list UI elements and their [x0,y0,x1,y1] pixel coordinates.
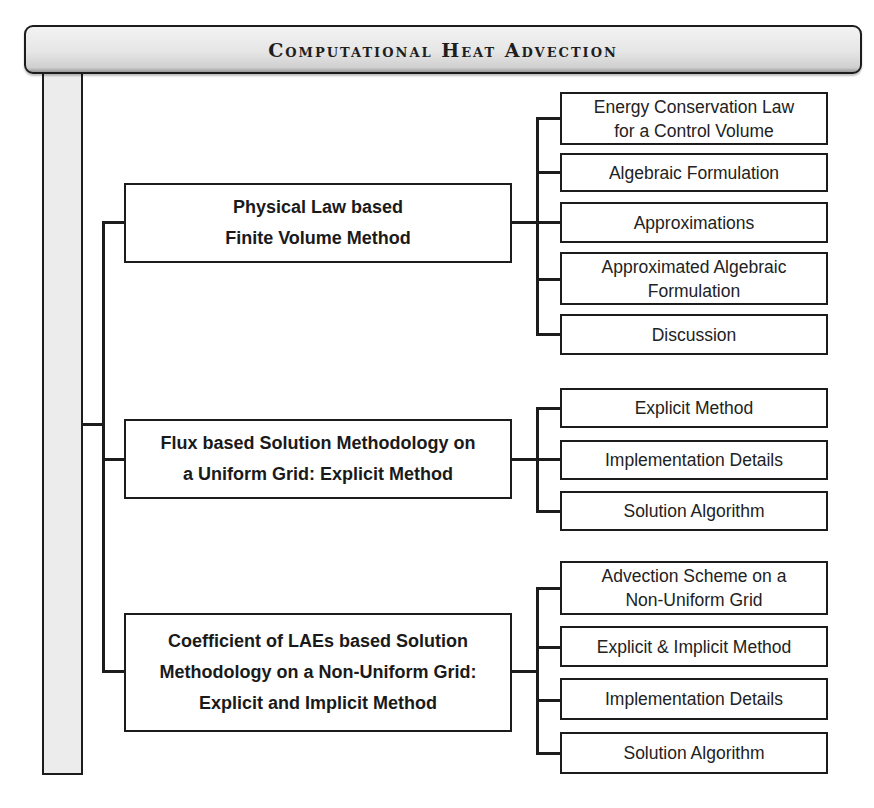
topic-label: Discussion [652,323,737,347]
connector-branch-3-vertical [536,587,539,754]
connector-spine-to-trunk [81,423,104,426]
connector-trunk-to-branch-2 [102,458,125,461]
branch-label: Flux based Solution Methodology on a Uni… [161,428,476,490]
connector-branch-1-child-3 [536,221,561,224]
topic-box: Solution Algorithm [560,491,828,531]
topic-label: Solution Algorithm [623,499,764,523]
topic-label: Advection Scheme on a Non-Uniform Grid [602,564,787,612]
topic-box: Solution Algorithm [560,732,828,774]
topic-box: Energy Conservation Law for a Control Vo… [560,92,828,145]
topic-box: Discussion [560,314,828,355]
connector-branch-3-child-1 [536,587,561,590]
connector-trunk-to-branch-1 [102,221,125,224]
connector-branch-2-out [511,458,538,461]
branch-box-coefficient-of-laes: Coefficient of LAEs based Solution Metho… [124,613,512,732]
topic-label: Approximations [634,211,755,235]
topic-label: Implementation Details [605,687,783,711]
topic-label: Explicit Method [635,396,754,420]
topic-label: Explicit & Implicit Method [597,635,792,659]
root-spine [42,70,83,775]
topic-label: Implementation Details [605,448,783,472]
topic-label: Approximated Algebraic Formulation [602,255,787,303]
topic-box: Explicit & Implicit Method [560,626,828,667]
topic-label: Energy Conservation Law for a Control Vo… [594,95,794,143]
connector-branch-1-out [511,221,538,224]
branch-box-finite-volume-method: Physical Law based Finite Volume Method [124,183,512,263]
branch-label: Coefficient of LAEs based Solution Metho… [160,626,477,719]
connector-branch-2-child-2 [536,458,561,461]
branch-box-flux-based-explicit: Flux based Solution Methodology on a Uni… [124,419,512,499]
topic-label: Algebraic Formulation [609,161,779,185]
topic-box: Approximated Algebraic Formulation [560,252,828,305]
topic-box: Approximations [560,202,828,243]
diagram-title: Computational Heat Advection [268,39,618,61]
connector-branch-1-vertical [536,117,539,335]
topic-box: Advection Scheme on a Non-Uniform Grid [560,561,828,615]
topic-box: Implementation Details [560,440,828,480]
connector-branch-2-child-3 [536,510,561,513]
connector-trunk-vertical [102,221,105,672]
topic-label: Solution Algorithm [623,741,764,765]
connector-branch-3-out [511,670,538,673]
topic-box: Explicit Method [560,388,828,428]
branch-label: Physical Law based Finite Volume Method [225,192,411,254]
connector-branch-1-child-5 [536,333,561,336]
connector-branch-1-child-4 [536,278,561,281]
connector-branch-3-child-3 [536,699,561,702]
connector-branch-3-child-2 [536,646,561,649]
connector-branch-2-child-1 [536,407,561,410]
connector-trunk-to-branch-3 [102,670,125,673]
connector-branch-3-child-4 [536,752,561,755]
diagram-title-bar: Computational Heat Advection [24,25,862,74]
topic-box: Algebraic Formulation [560,153,828,192]
topic-box: Implementation Details [560,678,828,720]
connector-branch-1-child-2 [536,171,561,174]
connector-branch-1-child-1 [536,117,561,120]
